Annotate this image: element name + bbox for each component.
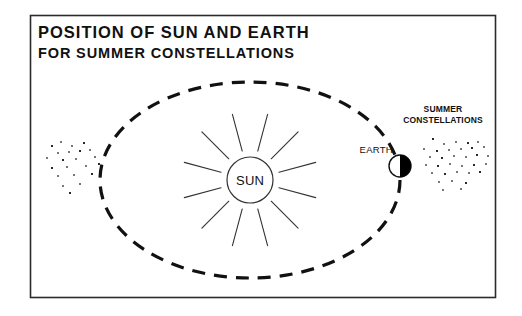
star-dot	[98, 163, 100, 165]
star-dot	[471, 147, 473, 149]
star-dot	[483, 146, 485, 148]
star-dot	[75, 158, 77, 160]
star-dot	[479, 171, 481, 173]
star-dot	[460, 188, 462, 190]
star-dot	[62, 159, 64, 161]
star-dot	[432, 138, 434, 140]
star-dot	[444, 173, 446, 175]
star-dot	[68, 151, 70, 153]
star-dot	[468, 172, 470, 174]
star-dot	[79, 183, 81, 185]
earth-body	[389, 155, 411, 177]
title-line-2: FOR SUMMER CONSTELLATIONS	[38, 45, 295, 61]
star-dot	[456, 171, 458, 173]
star-dot	[423, 148, 425, 150]
star-dot	[431, 172, 433, 174]
star-dot	[66, 166, 68, 168]
star-dot	[455, 141, 457, 143]
star-dot	[442, 189, 444, 191]
star-dot	[85, 165, 87, 167]
star-dot	[79, 150, 81, 152]
star-dot	[465, 156, 467, 158]
star-dot	[485, 163, 487, 165]
star-dot	[473, 164, 475, 166]
star-dot	[437, 165, 439, 167]
star-dot	[425, 164, 427, 166]
star-dot	[71, 145, 73, 147]
star-dot	[91, 173, 93, 175]
star-dot	[438, 181, 440, 183]
star-dot	[449, 163, 451, 165]
star-dot	[57, 175, 59, 177]
star-dot	[89, 149, 91, 151]
sun-label: SUN	[236, 173, 264, 188]
star-dot	[83, 142, 85, 144]
star-dot	[465, 182, 467, 184]
star-dot	[476, 154, 478, 156]
star-dot	[453, 155, 455, 157]
star-dot	[46, 157, 48, 159]
star-dot	[51, 167, 53, 169]
star-dot	[441, 157, 443, 159]
diagram-canvas: POSITION OF SUN AND EARTH FOR SUMMER CON…	[0, 0, 522, 316]
constellations-label-line-2: CONSTELLATIONS	[403, 115, 483, 125]
star-dot	[451, 180, 453, 182]
star-dot	[94, 156, 96, 158]
star-dot	[487, 155, 489, 157]
star-dot	[62, 185, 64, 187]
star-dot	[429, 156, 431, 158]
star-dot	[60, 141, 62, 143]
star-dot	[448, 149, 450, 151]
star-dot	[436, 150, 438, 152]
star-dot	[467, 142, 469, 144]
star-dot	[73, 174, 75, 176]
earth-label: EARTH	[360, 144, 393, 155]
star-dot	[69, 192, 71, 194]
star-dot	[51, 145, 53, 147]
star-dot	[461, 165, 463, 167]
diagram-root: POSITION OF SUN AND EARTH FOR SUMMER CON…	[0, 0, 522, 316]
constellations-label-line-1: SUMMER	[424, 104, 463, 114]
star-dot	[57, 152, 59, 154]
star-dot	[477, 141, 479, 143]
star-dot	[443, 143, 445, 145]
star-dot	[460, 148, 462, 150]
title-line-1: POSITION OF SUN AND EARTH	[38, 23, 310, 41]
